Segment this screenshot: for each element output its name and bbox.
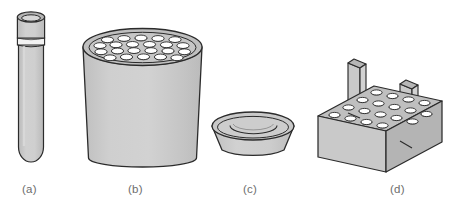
bowl-rim-inner [218, 116, 289, 138]
item-c-shallow-bowl [212, 112, 294, 155]
test-tube-rim-inner [22, 15, 41, 21]
item-b-tube-block [83, 29, 202, 167]
item-a-test-tube [17, 12, 44, 162]
laboratory-equipment-figure [0, 0, 465, 214]
item-d-tube-rack [318, 59, 442, 172]
figure-container: (a) (b) (c) (d) [0, 0, 465, 214]
